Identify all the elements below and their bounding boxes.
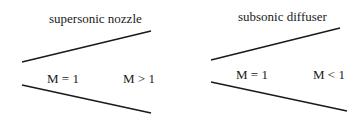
nozzle-inlet-mach: M = 1 [47, 72, 79, 85]
diffuser-inlet-mach: M = 1 [236, 68, 268, 81]
nozzle-upper-wall [22, 31, 151, 62]
diffuser-outlet-mach: M < 1 [313, 68, 345, 81]
nozzle-lower-wall [22, 85, 151, 113]
diffuser-title: subsonic diffuser [238, 10, 327, 23]
nozzle-title: supersonic nozzle [49, 12, 142, 25]
diffuser-upper-wall [211, 28, 340, 60]
diffuser-lower-wall [211, 82, 347, 111]
nozzle-outlet-mach: M > 1 [123, 72, 155, 85]
